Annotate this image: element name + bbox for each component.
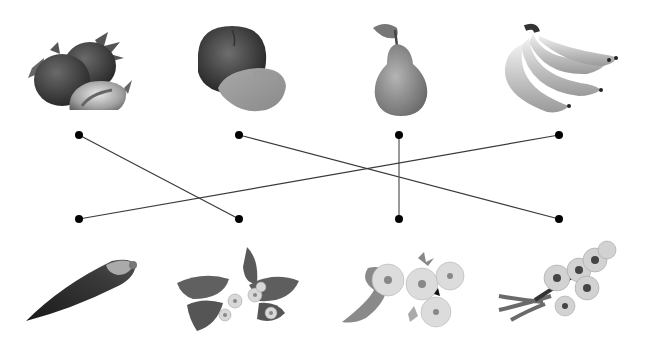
dot-banana-flower[interactable] (75, 215, 83, 223)
strawberry-image: Strawberry fruit (20, 28, 132, 110)
banana-flower-image: Banana flower bud (22, 255, 142, 325)
dot-pear[interactable] (395, 131, 403, 139)
dot-strawberry-flower[interactable] (235, 215, 243, 223)
peach-blossom-image: Peach blossom branch (495, 240, 625, 332)
banana-image: Banana fruit (495, 20, 625, 116)
pear-blossom-image: Pear blossoms (338, 250, 468, 332)
line-banana-to-banana-flower (79, 135, 559, 219)
line-strawberry-to-strawberry-flower (79, 135, 239, 219)
dot-banana[interactable] (555, 131, 563, 139)
dot-peach[interactable] (235, 131, 243, 139)
dot-strawberry[interactable] (75, 131, 83, 139)
pear-image: Pear fruit (365, 20, 435, 120)
peach-image: Peach fruit (188, 24, 290, 114)
dot-pear-blossom[interactable] (395, 215, 403, 223)
strawberry-flower-image: Strawberry flowers and leaves (173, 243, 303, 333)
dot-peach-blossom[interactable] (555, 215, 563, 223)
